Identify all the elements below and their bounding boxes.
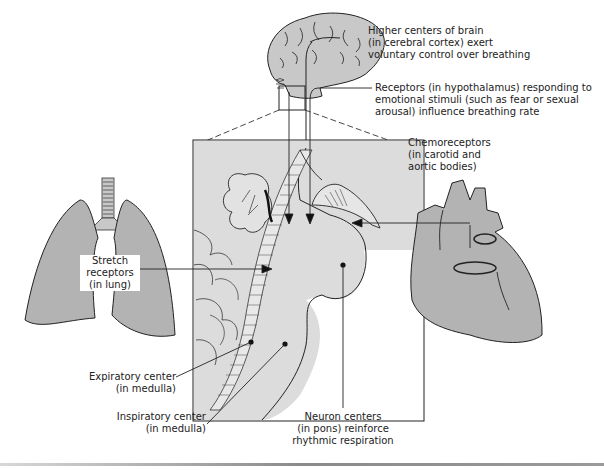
label-line: Receptors (in hypothalamus) responding t… bbox=[375, 82, 592, 94]
label-line: arousal) influence breathing rate bbox=[375, 106, 592, 118]
label-line: emotional stimuli (such as fear or sexua… bbox=[375, 94, 592, 106]
label-line: rhythmic respiration bbox=[283, 435, 403, 447]
brain-illustration bbox=[268, 13, 385, 150]
breathing-control-diagram bbox=[0, 0, 604, 470]
label-line: (in lung) bbox=[80, 279, 140, 291]
label-line: (in medulla) bbox=[96, 423, 206, 435]
label-line: Higher centers of brain bbox=[368, 25, 530, 37]
label-line: (in carotid and bbox=[408, 149, 491, 161]
label-line: receptors bbox=[80, 267, 140, 279]
label-higher-centers: Higher centers of brain (in cerebral cor… bbox=[368, 25, 530, 61]
label-line: Inspiratory center bbox=[96, 411, 206, 423]
label-stretch-receptors: Stretch receptors (in lung) bbox=[80, 255, 140, 291]
label-line: (in medulla) bbox=[66, 383, 176, 395]
label-hypothalamus-receptors: Receptors (in hypothalamus) responding t… bbox=[375, 82, 592, 118]
label-line: Stretch bbox=[80, 255, 140, 267]
brainstem-inset bbox=[193, 140, 424, 421]
label-line: voluntary control over breathing bbox=[368, 49, 530, 61]
label-line: Neuron centers bbox=[283, 411, 403, 423]
label-line: Chemoreceptors bbox=[408, 137, 491, 149]
label-line: (in cerebral cortex) exert bbox=[368, 37, 530, 49]
heart-illustration bbox=[411, 180, 542, 343]
label-line: aortic bodies) bbox=[408, 161, 491, 173]
label-neuron-centers: Neuron centers (in pons) reinforce rhyth… bbox=[283, 411, 403, 447]
bottom-divider bbox=[0, 463, 604, 466]
label-line: Expiratory center bbox=[66, 371, 176, 383]
label-line: (in pons) reinforce bbox=[283, 423, 403, 435]
label-chemoreceptors: Chemoreceptors (in carotid and aortic bo… bbox=[408, 137, 491, 173]
label-expiratory-center: Expiratory center (in medulla) bbox=[66, 371, 176, 395]
label-inspiratory-center: Inspiratory center (in medulla) bbox=[96, 411, 206, 435]
